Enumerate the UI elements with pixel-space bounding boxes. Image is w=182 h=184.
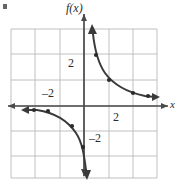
curve-point-marker xyxy=(70,124,74,128)
curve-branch-quadrant-i xyxy=(88,24,160,101)
curve-point-marker xyxy=(94,53,98,57)
graph-figure: f(x) x 2 –2 –2 2 xyxy=(0,0,182,184)
x-axis-arrow-right xyxy=(161,103,168,109)
x-axis-tick-label-positive-2: 2 xyxy=(113,111,119,123)
curve-point-marker xyxy=(146,94,150,98)
x-axis-arrow-left xyxy=(8,103,15,109)
y-axis-tick-label-negative-2: –2 xyxy=(89,132,101,144)
curve-arrow-left xyxy=(21,106,29,114)
curve-arrow-right xyxy=(152,93,160,101)
x-axis-tick-label-negative-2: –2 xyxy=(42,87,54,99)
curve-point-marker xyxy=(32,108,36,112)
function-label: f(x) xyxy=(66,2,83,14)
curve-branch-quadrant-iii xyxy=(21,106,91,180)
curve-point-marker xyxy=(107,78,111,82)
curve-point-marker xyxy=(131,91,135,95)
curve-point-marker xyxy=(81,145,85,149)
coordinate-plane xyxy=(0,0,182,184)
x-axis-label: x xyxy=(170,99,175,110)
y-axis-arrow-up xyxy=(81,14,87,21)
y-axis-tick-label-positive-2: 2 xyxy=(68,57,74,69)
curve-point-marker xyxy=(46,109,50,113)
